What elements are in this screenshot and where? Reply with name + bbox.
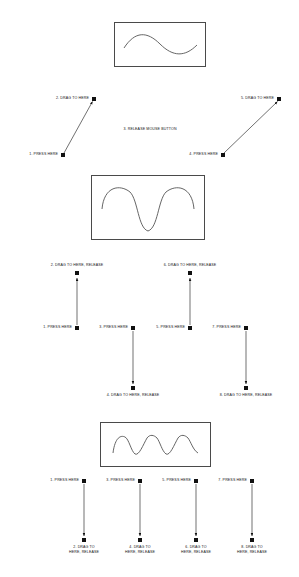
label-press-7: 7. PRESS HERE xyxy=(193,325,241,330)
marker-drag-8[interactable] xyxy=(250,538,254,542)
arrow-drag-1-to-2 xyxy=(64,102,93,154)
label-drag-8-line2: HERE, RELEASE xyxy=(237,550,267,554)
marker-press-7[interactable] xyxy=(250,479,254,483)
sawtooth-curve xyxy=(101,423,210,466)
label-drag-2: 2. DRAG TO HERE xyxy=(33,96,89,101)
arrow-layer xyxy=(0,0,299,577)
arrow-drag-4-to-5 xyxy=(224,102,278,154)
marker-drag-4[interactable] xyxy=(138,538,142,542)
marker-press-3[interactable] xyxy=(138,479,142,483)
label-press-5: 5. PRESS HERE xyxy=(143,478,191,483)
label-press-7: 7. PRESS HERE xyxy=(199,478,247,483)
label-press-1: 1. PRESS HERE xyxy=(24,325,72,330)
label-drag-6-line2: HERE, RELEASE xyxy=(181,550,211,554)
label-drag-8-line1: 8. DRAG TO xyxy=(241,545,262,549)
label-press-3: 3. PRESS HERE xyxy=(80,325,128,330)
label-drag-2: 2. DRAG TO HERE, RELEASE xyxy=(61,545,107,555)
instruction-diagram: 1. PRESS HERE 2. DRAG TO HERE 3. RELEASE… xyxy=(0,0,299,577)
waveform-box-single-sine xyxy=(114,22,206,67)
label-drag-4-line2: HERE, RELEASE xyxy=(125,550,155,554)
marker-press-7[interactable] xyxy=(244,326,248,330)
label-drag-4: 4. DRAG TO HERE, RELEASE xyxy=(89,393,177,398)
marker-press-1[interactable] xyxy=(75,326,79,330)
marker-press-1[interactable] xyxy=(61,153,65,157)
label-release-3: 3. RELEASE MOUSE BUTTON xyxy=(105,127,195,132)
double-wave-curve xyxy=(92,176,204,239)
label-drag-5: 5. DRAG TO HERE xyxy=(222,96,274,101)
label-drag-6-line1: 6. DRAG TO xyxy=(185,545,206,549)
marker-drag-5[interactable] xyxy=(277,97,281,101)
label-drag-8: 8. DRAG TO HERE, RELEASE xyxy=(202,393,290,398)
label-drag-4-line1: 4. DRAG TO xyxy=(129,545,150,549)
label-press-1: 1. PRESS HERE xyxy=(31,478,79,483)
marker-press-3[interactable] xyxy=(131,326,135,330)
marker-drag-6[interactable] xyxy=(188,271,192,275)
marker-press-5[interactable] xyxy=(194,479,198,483)
label-press-5: 5. PRESS HERE xyxy=(137,325,185,330)
waveform-box-double-wave xyxy=(91,175,205,240)
label-drag-2-line2: HERE, RELEASE xyxy=(69,550,99,554)
label-press-4: 4. PRESS HERE xyxy=(168,152,218,157)
marker-drag-8[interactable] xyxy=(244,386,248,390)
label-press-1: 1. PRESS HERE xyxy=(8,152,58,157)
marker-drag-2[interactable] xyxy=(75,271,79,275)
label-drag-8: 8. DRAG TO HERE, RELEASE xyxy=(229,545,275,555)
label-drag-4: 4. DRAG TO HERE, RELEASE xyxy=(117,545,163,555)
single-sine-curve xyxy=(115,23,205,66)
marker-drag-2[interactable] xyxy=(92,97,96,101)
label-drag-2-line1: 2. DRAG TO xyxy=(73,545,94,549)
marker-press-1[interactable] xyxy=(82,479,86,483)
label-drag-6: 6. DRAG TO HERE, RELEASE xyxy=(146,263,234,268)
label-press-3: 3. PRESS HERE xyxy=(87,478,135,483)
marker-press-4[interactable] xyxy=(221,153,225,157)
marker-drag-4[interactable] xyxy=(131,386,135,390)
marker-drag-2[interactable] xyxy=(82,538,86,542)
waveform-box-sawtooth xyxy=(100,422,211,467)
marker-drag-6[interactable] xyxy=(194,538,198,542)
label-drag-2: 2. DRAG TO HERE, RELEASE xyxy=(33,263,121,268)
label-drag-6: 6. DRAG TO HERE, RELEASE xyxy=(173,545,219,555)
marker-press-5[interactable] xyxy=(188,326,192,330)
